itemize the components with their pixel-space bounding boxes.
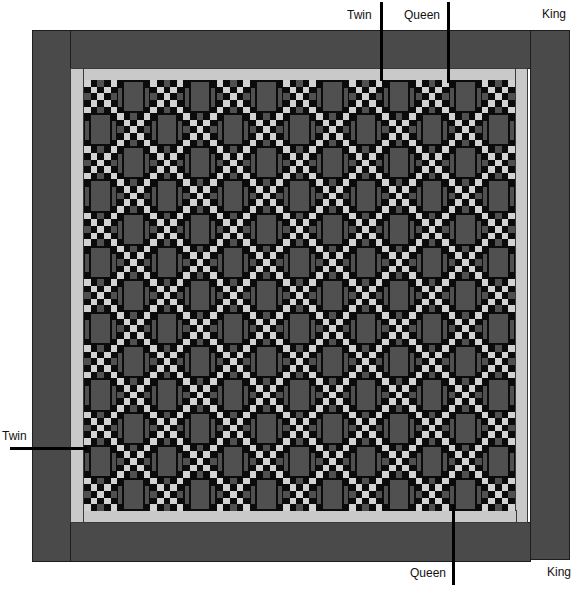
checker-block — [217, 345, 250, 378]
checker-block — [283, 146, 316, 179]
checker-block — [250, 179, 283, 212]
rectangle-block — [416, 179, 449, 212]
checker-block — [449, 312, 482, 345]
rectangle-block — [316, 80, 349, 113]
rectangle-block — [117, 146, 150, 179]
checker-block — [84, 478, 117, 511]
checker-block — [84, 80, 117, 113]
rectangle-block — [449, 279, 482, 312]
checker-block — [349, 279, 382, 312]
rectangle-block — [250, 345, 283, 378]
checker-block — [84, 213, 117, 246]
rectangle-block — [117, 478, 150, 511]
checker-block — [150, 146, 183, 179]
rectangle-block — [217, 179, 250, 212]
outer-border-left — [32, 30, 71, 562]
rectangle-block — [84, 312, 117, 345]
rectangle-block — [416, 445, 449, 478]
outer-border-top — [70, 30, 531, 69]
label-queen-top: Queen — [404, 8, 440, 22]
rectangle-block — [250, 412, 283, 445]
checker-block — [183, 179, 216, 212]
checker-block — [349, 80, 382, 113]
rectangle-block — [117, 412, 150, 445]
rectangle-block — [449, 412, 482, 445]
rectangle-block — [449, 146, 482, 179]
checker-block — [416, 412, 449, 445]
rectangle-block — [316, 478, 349, 511]
rectangle-block — [382, 80, 415, 113]
rectangle-block — [449, 345, 482, 378]
checker-block — [349, 412, 382, 445]
rectangle-block — [316, 345, 349, 378]
rectangle-block — [382, 412, 415, 445]
twin-cut-line-top — [380, 2, 383, 81]
rectangle-block — [250, 478, 283, 511]
rectangle-block — [84, 246, 117, 279]
checker-block — [416, 213, 449, 246]
checker-block — [183, 113, 216, 146]
rectangle-block — [416, 312, 449, 345]
checker-block — [84, 146, 117, 179]
checker-block — [349, 345, 382, 378]
checker-block — [482, 80, 515, 113]
rectangle-block — [150, 445, 183, 478]
checker-block — [449, 113, 482, 146]
checker-block — [250, 113, 283, 146]
checker-block — [449, 179, 482, 212]
checker-block — [349, 213, 382, 246]
checker-block — [150, 345, 183, 378]
rectangle-block — [217, 312, 250, 345]
checker-block — [84, 345, 117, 378]
twin-cut-line-left — [10, 447, 87, 450]
checker-block — [416, 345, 449, 378]
rectangle-block — [250, 279, 283, 312]
rectangle-block — [150, 246, 183, 279]
rectangle-block — [150, 378, 183, 411]
checker-block — [416, 80, 449, 113]
checker-block — [316, 246, 349, 279]
checker-block — [316, 113, 349, 146]
rectangle-block — [482, 179, 515, 212]
rectangle-block — [183, 412, 216, 445]
outer-border-bottom — [70, 522, 531, 562]
checker-block — [482, 478, 515, 511]
checker-block — [150, 412, 183, 445]
checker-block — [382, 378, 415, 411]
checker-block — [382, 113, 415, 146]
checker-block — [416, 478, 449, 511]
checker-block — [283, 279, 316, 312]
rectangle-block — [416, 113, 449, 146]
rectangle-block — [382, 345, 415, 378]
rectangle-block — [183, 345, 216, 378]
checker-block — [183, 246, 216, 279]
rectangle-block — [316, 146, 349, 179]
checker-block — [250, 312, 283, 345]
checker-block — [449, 378, 482, 411]
checker-block — [117, 445, 150, 478]
checker-block — [117, 246, 150, 279]
checker-block — [416, 146, 449, 179]
checker-block — [283, 213, 316, 246]
checker-block — [183, 312, 216, 345]
rectangle-block — [416, 378, 449, 411]
checker-block — [117, 179, 150, 212]
rectangle-block — [150, 312, 183, 345]
label-queen-bottom: Queen — [410, 566, 446, 580]
checker-block — [150, 279, 183, 312]
checker-block — [482, 213, 515, 246]
rectangle-block — [482, 312, 515, 345]
checker-block — [217, 213, 250, 246]
rectangle-block — [349, 312, 382, 345]
rectangle-block — [250, 146, 283, 179]
rectangle-block — [183, 279, 216, 312]
checker-block — [482, 146, 515, 179]
checker-block — [482, 279, 515, 312]
rectangle-block — [283, 179, 316, 212]
rectangle-block — [117, 213, 150, 246]
inner-border-left — [70, 68, 84, 523]
inner-border-right — [515, 68, 528, 523]
rectangle-block — [283, 113, 316, 146]
checker-block — [217, 80, 250, 113]
queen-cut-line-bottom — [452, 505, 455, 585]
